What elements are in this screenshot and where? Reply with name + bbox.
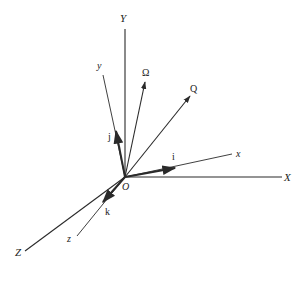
moving-axis-label-x: x	[235, 148, 241, 159]
fixed-axis-label-Z: Z	[15, 246, 22, 258]
unit-vector-label-k: k	[105, 206, 110, 217]
fixed-axis-label-Y: Y	[120, 12, 128, 24]
moving-axis-label-y: y	[96, 60, 102, 71]
unit-vector-label-i: i	[172, 151, 175, 162]
fixed-axis-label-X: X	[283, 171, 292, 183]
unit-vector-j	[116, 131, 125, 177]
fixed-axis-Z	[25, 177, 125, 251]
moving-axis-label-z: z	[66, 233, 71, 244]
unit-vector-i	[125, 168, 175, 177]
vector-label-Q: Q	[190, 83, 198, 94]
vector-label-Omega: Ω	[142, 67, 149, 78]
vector-Omega	[125, 82, 145, 177]
unit-vector-label-j: j	[107, 131, 111, 142]
coordinate-frame-diagram: XYZxyzΩQijkO	[0, 0, 306, 282]
origin-label: O	[122, 181, 129, 192]
labels-layer: XYZxyzΩQijkO	[15, 12, 292, 258]
axes-layer	[25, 29, 282, 251]
